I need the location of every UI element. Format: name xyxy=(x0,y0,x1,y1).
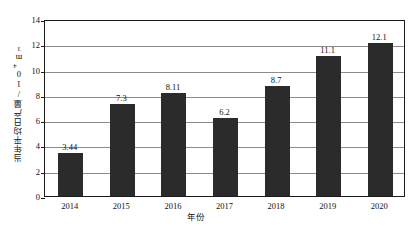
y-axis-tick xyxy=(41,97,45,98)
gridline xyxy=(45,72,404,73)
y-axis-tick xyxy=(41,173,45,174)
y-axis-tick xyxy=(41,21,45,22)
x-axis-tick-label: 2016 xyxy=(164,201,181,211)
bar-value-label: 3.44 xyxy=(62,143,77,152)
x-axis-tick-label: 2014 xyxy=(61,201,78,211)
bar xyxy=(58,153,83,196)
bar xyxy=(265,86,290,196)
bar-value-label: 12.1 xyxy=(372,33,387,42)
y-axis-tick-label: 4 xyxy=(22,142,40,151)
x-axis-title: 年份 xyxy=(0,212,416,222)
bar xyxy=(110,104,135,196)
gridline xyxy=(45,46,404,47)
x-axis-tick-label: 2015 xyxy=(113,201,130,211)
y-axis-tick-label: 12 xyxy=(22,41,40,50)
bar xyxy=(316,56,341,196)
y-axis-tick-label: 0 xyxy=(22,193,40,202)
bar xyxy=(161,93,186,196)
x-axis-tick-label: 2020 xyxy=(371,201,388,211)
gridline xyxy=(45,97,404,98)
bar-value-label: 11.1 xyxy=(320,46,335,55)
y-axis-tick xyxy=(41,122,45,123)
y-axis-tick xyxy=(41,46,45,47)
y-axis-tick-label: 6 xyxy=(22,117,40,126)
x-axis-tick-label: 2019 xyxy=(319,201,336,211)
bar-chart: 当年平均日产量/104m³ 02468101214 年份 3.4420147.3… xyxy=(0,0,416,233)
x-axis-tick-label: 2018 xyxy=(268,201,285,211)
x-axis-tick-label: 2017 xyxy=(216,201,233,211)
y-axis-tick-label: 2 xyxy=(22,167,40,176)
y-axis-tick xyxy=(41,72,45,73)
y-axis-tick-label: 10 xyxy=(22,66,40,75)
bar xyxy=(368,43,393,196)
y-axis-tick xyxy=(41,147,45,148)
y-axis-tick-label: 8 xyxy=(22,91,40,100)
y-axis-tick xyxy=(41,198,45,199)
y-axis-tick-label: 14 xyxy=(22,16,40,25)
y-axis-tick-labels: 02468101214 xyxy=(22,0,40,233)
bar xyxy=(213,118,238,196)
bar-value-label: 7.3 xyxy=(116,94,127,103)
bar-value-label: 6.2 xyxy=(219,108,230,117)
bar-value-label: 8.7 xyxy=(271,76,282,85)
bar-value-label: 8.11 xyxy=(166,83,181,92)
